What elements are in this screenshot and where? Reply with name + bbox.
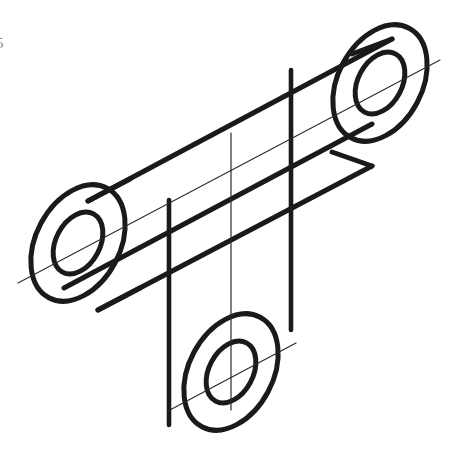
left-boss-inner-hole — [43, 204, 113, 283]
drawing-canvas: 5 — [0, 0, 450, 464]
right-boss-inner-hole — [345, 44, 415, 123]
main-axis-centerline — [18, 60, 440, 283]
isometric-bracket-drawing — [0, 0, 450, 464]
right-boss-outer-circle — [314, 9, 446, 158]
left-boss-web-tangent-lower — [98, 288, 140, 310]
upper-web-middle-edge — [64, 124, 372, 288]
right-boss-web-tangent-lower — [332, 152, 372, 166]
